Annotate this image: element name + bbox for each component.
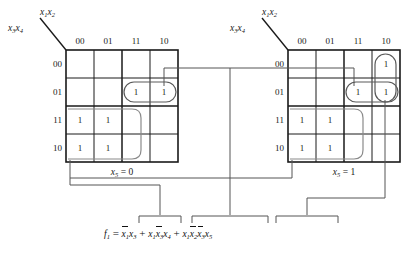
right-cell-r0c3: 1 xyxy=(372,59,400,69)
left-row-header-2: 11 xyxy=(42,115,62,125)
right-axis-label-rows: x3x4 xyxy=(230,22,245,34)
right-cell-r2c1: 1 xyxy=(316,115,344,125)
function-equation: f1 = x1x3 + x1x3x4 + x1x2x3x5 xyxy=(104,227,212,240)
left-cell-r2c1: 1 xyxy=(94,115,122,125)
right-cell-r3c0: 1 xyxy=(288,143,316,153)
left-map-caption: x5 = 0 xyxy=(66,167,178,178)
right-axis-label-cols: x1x2 xyxy=(262,6,277,18)
left-row-header-1: 01 xyxy=(42,87,62,97)
brace-term-3 xyxy=(276,216,338,223)
left-col-header-3: 10 xyxy=(150,36,178,46)
right-map-caption: x5 = 1 xyxy=(288,167,400,178)
left-cell-r1c2: 1 xyxy=(122,87,150,97)
left-cell-r3c1: 1 xyxy=(94,143,122,153)
right-cell-r1c3: 1 xyxy=(372,87,400,97)
leader-term2-left xyxy=(164,68,230,86)
brace-term-2 xyxy=(192,216,268,223)
left-axis-diagonal xyxy=(40,18,66,50)
left-cell-r1c3: 1 xyxy=(150,87,178,97)
right-col-header-0: 00 xyxy=(288,36,316,46)
right-cell-r1c2: 1 xyxy=(344,87,372,97)
right-caption-rest: = 1 xyxy=(340,167,355,177)
equation-equals: = xyxy=(113,227,119,239)
left-col-header-2: 11 xyxy=(122,36,150,46)
right-axis-diagonal xyxy=(262,18,288,50)
right-row-header-1: 01 xyxy=(264,87,284,97)
left-row-header-3: 10 xyxy=(42,143,62,153)
equation-plus-1: + xyxy=(139,227,145,239)
kmap-figure: x1x2 x3x4 00 01 11 10 00 01 11 10 1 1 1 … xyxy=(0,0,418,255)
left-row-header-0: 00 xyxy=(42,59,62,69)
equation-term-3: x1x2x3x5 xyxy=(182,227,212,239)
right-cell-r3c1: 1 xyxy=(316,143,344,153)
equation-term-1: x1x3 xyxy=(122,227,140,239)
equation-term-2: x1x3x4 xyxy=(148,227,173,239)
right-col-header-3: 10 xyxy=(372,36,400,46)
right-row-header-3: 10 xyxy=(264,143,284,153)
equation-plus-2: + xyxy=(173,227,179,239)
left-axis-label-rows: x3x4 xyxy=(8,22,23,34)
left-col-header-0: 00 xyxy=(66,36,94,46)
brace-term-1 xyxy=(139,216,181,223)
right-col-header-2: 11 xyxy=(344,36,372,46)
right-row-header-2: 11 xyxy=(264,115,284,125)
left-cell-r3c0: 1 xyxy=(66,143,94,153)
right-row-header-0: 00 xyxy=(264,59,284,69)
left-cell-r2c0: 1 xyxy=(66,115,94,125)
right-cell-r2c0: 1 xyxy=(288,115,316,125)
left-caption-rest: = 0 xyxy=(118,167,133,177)
left-col-header-1: 01 xyxy=(94,36,122,46)
right-col-header-1: 01 xyxy=(316,36,344,46)
equation-lhs-sub: 1 xyxy=(107,233,110,240)
left-axis-label-cols: x1x2 xyxy=(40,6,55,18)
